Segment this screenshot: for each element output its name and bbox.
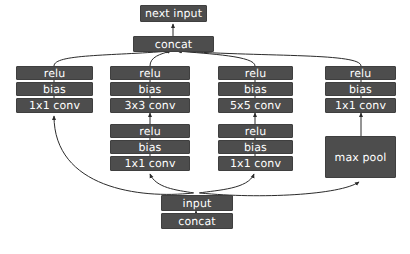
node-b3-conv: 5x5 conv xyxy=(218,98,293,113)
node-b3-lower-conv: 1x1 conv xyxy=(218,156,293,171)
node-b4-conv: 1x1 conv xyxy=(325,98,396,113)
node-b2-lower-relu: relu xyxy=(110,124,190,138)
node-top-concat: concat xyxy=(133,36,214,52)
node-b4-max-pool: max pool xyxy=(325,136,396,178)
node-input: input xyxy=(161,195,233,211)
edge-branch1-to-concat xyxy=(54,51,170,66)
node-b3-relu: relu xyxy=(218,66,293,80)
node-b2-conv: 3x3 conv xyxy=(110,98,190,113)
node-b3-lower-relu: relu xyxy=(218,124,293,138)
node-b2-bias: bias xyxy=(110,82,190,96)
edge-branch3-to-concat xyxy=(177,51,255,66)
node-b1-bias: bias xyxy=(16,82,93,96)
edge-input-to-branch2 xyxy=(150,174,194,193)
edge-input-to-branch4 xyxy=(200,182,359,196)
edge-branch2-to-concat xyxy=(150,51,171,66)
inception-module-diagram: next input concat relu bias 1x1 conv rel… xyxy=(0,0,410,254)
node-b4-bias: bias xyxy=(325,82,396,96)
node-b3-bias: bias xyxy=(218,82,293,96)
edge-branch4-to-concat xyxy=(178,51,361,66)
node-b1-relu: relu xyxy=(16,66,93,80)
node-b4-relu: relu xyxy=(325,66,396,80)
node-next-input: next input xyxy=(140,5,207,22)
edge-input-to-branch3 xyxy=(199,174,254,193)
node-bottom-concat: concat xyxy=(161,213,233,229)
node-b3-lower-bias: bias xyxy=(218,140,293,154)
node-b2-lower-conv: 1x1 conv xyxy=(110,156,190,171)
node-b2-relu: relu xyxy=(110,66,190,80)
node-b1-conv: 1x1 conv xyxy=(16,98,93,113)
node-b2-lower-bias: bias xyxy=(110,140,190,154)
